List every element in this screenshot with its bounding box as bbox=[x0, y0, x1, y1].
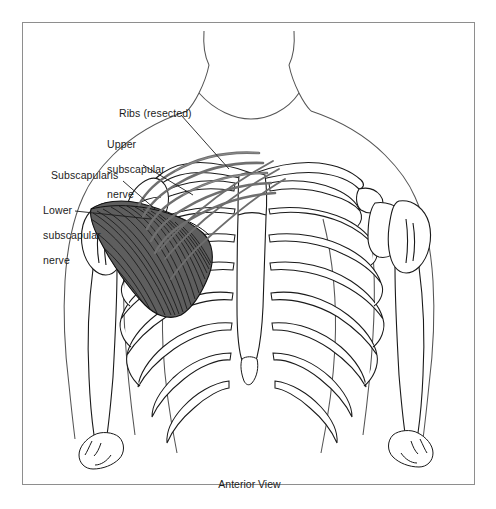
label-line: nerve bbox=[107, 188, 134, 200]
distal-humerus-right bbox=[389, 431, 434, 467]
humerus-right bbox=[388, 201, 430, 433]
label-subscapularis: Subscapularis bbox=[51, 169, 118, 182]
illustration-frame: Ribs (resected) Upper subscapular nerve … bbox=[22, 22, 475, 485]
leader-ribs-resected bbox=[181, 115, 229, 169]
label-line: nerve bbox=[43, 254, 70, 266]
label-ribs-resected: Ribs (resected) bbox=[119, 107, 192, 120]
illustration-stage: Ribs (resected) Upper subscapular nerve … bbox=[0, 0, 496, 509]
label-lower-subscapular-nerve: Lower subscapular nerve bbox=[25, 191, 101, 279]
distal-humerus-left bbox=[79, 433, 124, 469]
label-line: Lower bbox=[43, 204, 72, 216]
label-line: subscapular bbox=[43, 229, 101, 241]
figure-caption: Anterior View bbox=[23, 478, 476, 490]
xiphoid-process bbox=[241, 357, 258, 385]
label-line: Upper bbox=[107, 138, 136, 150]
